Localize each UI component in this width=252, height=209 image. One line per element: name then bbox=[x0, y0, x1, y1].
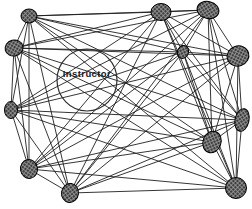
edge-line bbox=[70, 188, 236, 193]
instructor-ellipse bbox=[57, 49, 117, 111]
edge-line bbox=[212, 56, 238, 142]
figure: Instructor bbox=[0, 0, 252, 209]
network-node bbox=[151, 4, 171, 21]
edge-line bbox=[161, 12, 242, 120]
network-node bbox=[60, 182, 79, 203]
network-node bbox=[19, 158, 39, 180]
edge-line bbox=[70, 120, 242, 193]
instructor-label: Instructor bbox=[63, 68, 111, 79]
edge-line bbox=[14, 48, 242, 120]
network-node bbox=[21, 9, 37, 23]
edge-line bbox=[11, 52, 183, 110]
edge-line bbox=[70, 12, 161, 193]
network-node bbox=[5, 102, 18, 119]
sociogram-canvas: Instructor bbox=[0, 0, 252, 209]
network-node bbox=[224, 43, 251, 69]
edge-lines bbox=[11, 10, 242, 193]
network-node bbox=[226, 178, 247, 199]
edge-line bbox=[29, 10, 208, 169]
